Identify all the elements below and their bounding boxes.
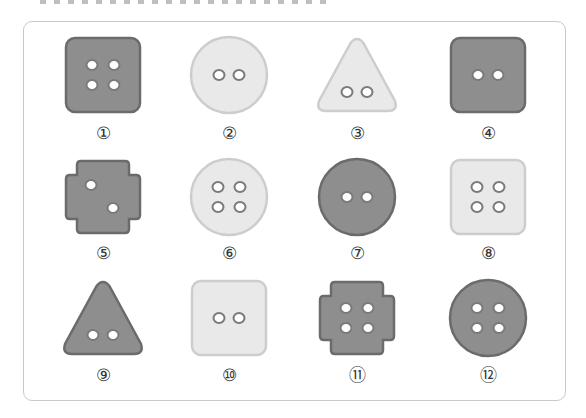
button-item-11[interactable]: ⑪ <box>297 258 417 378</box>
item-number-label: ⑨ <box>43 365 163 385</box>
button-item-2[interactable]: ② <box>169 15 289 135</box>
button-item-10[interactable]: ⑩ <box>169 258 289 378</box>
square-button-icon <box>428 15 548 135</box>
item-number-label: ⑩ <box>169 365 289 385</box>
square-button-icon <box>169 258 289 378</box>
circle-button-icon <box>297 137 417 257</box>
button-item-9[interactable]: ⑨ <box>43 258 163 378</box>
button-item-1[interactable]: ① <box>43 15 163 135</box>
square-button-icon <box>43 15 163 135</box>
triangle-button-icon <box>297 15 417 135</box>
button-item-7[interactable]: ⑦ <box>297 137 417 257</box>
cropped-instruction-text <box>40 0 330 4</box>
item-number-label: ⑫ <box>428 365 548 385</box>
triangle-button-icon <box>43 258 163 378</box>
circle-button-icon <box>169 15 289 135</box>
button-item-12[interactable]: ⑫ <box>428 258 548 378</box>
circle-button-icon <box>169 137 289 257</box>
button-item-3[interactable]: ③ <box>297 15 417 135</box>
button-item-5[interactable]: ⑤ <box>43 137 163 257</box>
circle-button-icon <box>428 258 548 378</box>
cross-button-icon <box>297 258 417 378</box>
cross-button-icon <box>43 137 163 257</box>
button-item-4[interactable]: ④ <box>428 15 548 135</box>
item-number-label: ⑪ <box>297 365 417 385</box>
square-button-icon <box>428 137 548 257</box>
button-item-6[interactable]: ⑥ <box>169 137 289 257</box>
button-item-8[interactable]: ⑧ <box>428 137 548 257</box>
